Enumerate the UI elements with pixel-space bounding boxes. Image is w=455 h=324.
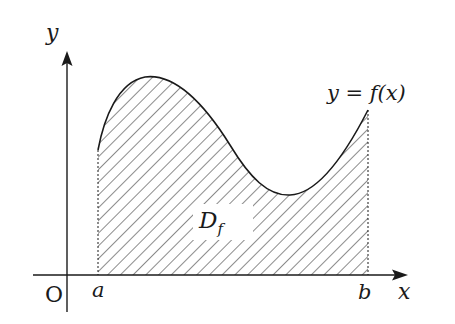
origin-label: O xyxy=(45,284,63,306)
x-axis-label: x xyxy=(398,281,410,303)
curve-label: y = f(x) xyxy=(327,83,406,104)
upper-bound-label: b xyxy=(358,282,371,303)
region-label: Df xyxy=(199,209,223,237)
area-under-curve-diagram: y x O a b y = f(x) Df xyxy=(0,0,455,324)
region-label-subscript: f xyxy=(217,220,223,238)
y-axis-label: y xyxy=(46,22,58,44)
region-label-main: D xyxy=(199,207,217,233)
y-axis xyxy=(62,51,73,312)
lower-bound-label: a xyxy=(92,280,105,301)
